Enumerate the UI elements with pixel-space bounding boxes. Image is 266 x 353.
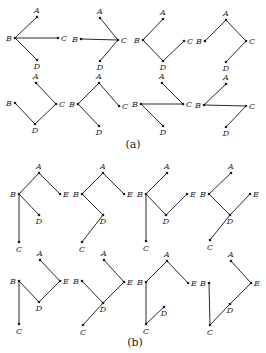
graph-a-3: ABCD: [133, 8, 193, 72]
vertex-label-A: A: [163, 162, 170, 171]
vertex-label-D: D: [160, 309, 168, 318]
vertex-label-B: B: [131, 100, 138, 109]
vertex-C: [145, 240, 148, 243]
graph-a-7: ABCD: [131, 72, 192, 137]
vertex-D: [162, 60, 165, 63]
edge-CD: [226, 41, 246, 62]
edge-AC: [99, 83, 119, 106]
edge-CB: [209, 283, 210, 325]
vertex-label-D: D: [222, 129, 230, 138]
vertex-A: [162, 18, 165, 21]
vertex-A: [98, 82, 101, 85]
vertex-A: [225, 83, 228, 86]
edge-BA: [143, 19, 163, 40]
vertex-label-B: B: [199, 279, 206, 288]
vertex-label-C: C: [79, 245, 85, 254]
edge-BA: [209, 173, 231, 194]
vertex-label-A: A: [222, 73, 229, 82]
edge-AC: [36, 83, 56, 104]
edge-BD: [143, 40, 163, 61]
graph-diagram: ABCDABCDABCDABCDABCDABCDABCDABCD(a)ABCDE…: [0, 0, 266, 353]
graph-b-2: ABCDE: [72, 162, 133, 254]
edge-CD: [100, 40, 118, 61]
vertex-B: [14, 37, 17, 40]
vertex-A: [39, 259, 42, 262]
vertex-C: [145, 323, 148, 326]
vertex-C: [118, 105, 121, 108]
part-a: ABCDABCDABCDABCDABCDABCDABCDABCD(a): [5, 6, 255, 151]
vertex-D: [102, 302, 105, 305]
vertex-C: [209, 239, 212, 242]
edge-AE: [103, 173, 124, 194]
vertex-C: [245, 40, 248, 43]
vertex-D: [98, 125, 101, 128]
edge-AE: [39, 173, 60, 194]
vertex-label-A: A: [99, 162, 106, 171]
vertex-label-C: C: [249, 102, 255, 111]
vertex-B: [14, 102, 17, 105]
vertex-label-B: B: [5, 34, 12, 43]
vertex-label-C: C: [186, 100, 192, 109]
vertex-D: [34, 123, 37, 126]
vertex-label-D: D: [35, 217, 43, 226]
vertex-label-D: D: [99, 305, 107, 314]
edge-CB: [81, 39, 118, 40]
edge-DB: [19, 281, 39, 302]
vertex-label-A: A: [33, 6, 40, 15]
vertex-label-B: B: [72, 277, 79, 286]
vertex-label-B: B: [199, 190, 206, 199]
graph-b-6: ABCDE: [72, 249, 133, 337]
caption-a: (a): [125, 138, 140, 151]
edge-DB: [15, 103, 35, 124]
vertex-B: [80, 38, 83, 41]
vertex-A: [230, 260, 233, 263]
vertex-C: [209, 324, 212, 327]
vertex-B: [208, 282, 211, 285]
vertex-label-B: B: [9, 277, 16, 286]
edge-DC: [163, 41, 184, 61]
vertex-label-C: C: [122, 102, 128, 111]
vertex-E: [250, 282, 253, 285]
vertex-B: [203, 104, 206, 107]
vertex-label-D: D: [222, 64, 230, 73]
vertex-label-A: A: [95, 72, 102, 81]
vertex-D: [165, 214, 168, 217]
vertex-label-B: B: [195, 37, 202, 46]
vertex-D: [38, 214, 41, 217]
edge-AE: [40, 260, 60, 281]
vertex-label-C: C: [187, 37, 193, 46]
vertex-label-E: E: [62, 190, 69, 199]
edge-ED: [230, 283, 251, 304]
graph-b-5: ABCDE: [9, 249, 69, 336]
edge-AE: [167, 261, 188, 283]
vertex-C: [18, 241, 21, 244]
vertex-label-A: A: [227, 162, 234, 171]
vertex-C: [81, 241, 84, 244]
spanning-trees-figure: ABCDABCDABCDABCDABCDABCDABCDABCD(a)ABCDE…: [0, 0, 266, 353]
vertex-label-B: B: [136, 190, 143, 199]
vertex-C: [18, 323, 21, 326]
edge-BC: [204, 105, 246, 106]
graph-b-4: ABCDE: [199, 162, 259, 252]
vertex-D: [229, 214, 232, 217]
vertex-label-A: A: [163, 250, 170, 259]
vertex-E: [249, 193, 252, 196]
edge-AB: [82, 173, 103, 194]
vertex-label-B: B: [194, 101, 201, 110]
vertex-label-A: A: [35, 162, 42, 171]
graph-a-1: ABCD: [5, 6, 67, 71]
vertex-label-E: E: [126, 278, 133, 287]
vertex-D: [102, 214, 105, 217]
vertex-C: [182, 103, 185, 106]
vertex-label-D: D: [159, 63, 167, 72]
edge-BD: [82, 194, 103, 215]
edge-BD: [15, 38, 37, 60]
vertex-A: [225, 19, 228, 22]
vertex-D: [225, 61, 228, 64]
vertex-A: [230, 172, 233, 175]
vertex-A: [166, 260, 169, 263]
edge-ED: [103, 282, 124, 303]
vertex-label-D: D: [95, 128, 103, 137]
vertex-A: [102, 172, 105, 175]
graph-b-7: ABCDE: [136, 250, 197, 336]
